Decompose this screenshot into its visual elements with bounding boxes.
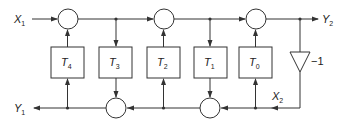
junction-dot (162, 106, 165, 109)
output-y2-label: Y2 (322, 13, 333, 27)
gain-block: −1 (290, 19, 324, 108)
summing-node-bottom-1 (106, 98, 126, 118)
delay-blocks: T4 T3 T2 T1 T0 (51, 19, 272, 108)
junction-dot (66, 106, 69, 109)
summing-node-top-2 (154, 9, 174, 29)
arrow-icon (208, 40, 213, 47)
junction-dot (254, 106, 257, 109)
arrow-icon (127, 106, 134, 111)
gain-triangle-icon (290, 52, 310, 72)
lattice-filter-diagram: X1 Y2 T4 T3 (0, 0, 349, 123)
bottom-rail: X2 Y1 (14, 90, 300, 118)
summing-node-top-1 (58, 9, 78, 29)
arrow-icon (65, 29, 70, 36)
arrow-icon (221, 106, 228, 111)
arrow-icon (208, 91, 213, 98)
gain-label: −1 (311, 55, 324, 67)
arrow-icon (312, 17, 319, 22)
arrow-icon (114, 40, 119, 47)
top-rail: X1 Y2 (13, 9, 333, 29)
arrow-icon (51, 17, 58, 22)
input-x2-label: X2 (271, 90, 283, 104)
summing-node-top-3 (246, 9, 266, 29)
summing-node-bottom-2 (200, 98, 220, 118)
arrow-icon (239, 17, 246, 22)
arrow-icon (253, 29, 258, 36)
input-x1-label: X1 (13, 13, 25, 27)
arrow-icon (253, 78, 258, 85)
output-y1-label: Y1 (14, 102, 25, 116)
arrow-icon (271, 106, 278, 111)
arrow-icon (161, 78, 166, 85)
arrow-icon (161, 29, 166, 36)
arrow-icon (147, 17, 154, 22)
arrow-icon (114, 91, 119, 98)
arrow-icon (33, 106, 40, 111)
arrow-icon (65, 78, 70, 85)
